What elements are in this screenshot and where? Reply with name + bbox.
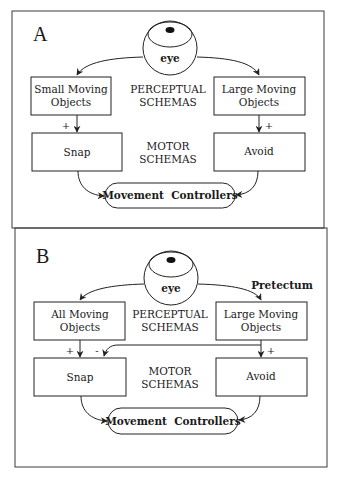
arrow-eye-to-left <box>80 284 144 300</box>
arrow-avoid-to-controllers <box>236 171 258 195</box>
arrow-snap-to-controllers <box>81 396 107 421</box>
arrow-eye-to-right <box>197 57 259 75</box>
sign-right: + <box>265 120 273 131</box>
arrow-avoid-to-controllers <box>239 396 260 420</box>
perceptual-schemas-label-2: SCHEMAS <box>139 96 197 108</box>
arrow-inhibit-snap <box>104 345 261 356</box>
sign-right: + <box>267 345 275 356</box>
motor-avoid-label: Avoid <box>243 145 274 157</box>
perceptual-schemas-label-2: SCHEMAS <box>141 321 199 333</box>
eye-icon <box>144 251 198 305</box>
motor-snap-label: Snap <box>64 146 91 158</box>
sign-left: + <box>66 345 74 356</box>
eye-label: eye <box>160 52 180 64</box>
perceptual-right-line1: Large Moving <box>222 83 297 95</box>
perceptual-left-line2: Objects <box>51 96 91 108</box>
motor-snap-label: Snap <box>67 371 94 383</box>
panel-b-letter: B <box>36 245 49 267</box>
motor-schemas-label-2: SCHEMAS <box>139 153 197 165</box>
perceptual-schemas-label-1: PERCEPTUAL <box>130 83 206 95</box>
schema-diagram: A eye Small Moving Objects Large Moving … <box>0 0 338 479</box>
perceptual-right-line1: Large Moving <box>224 308 299 320</box>
motor-schemas-label-2: SCHEMAS <box>141 378 199 390</box>
motor-schemas-label-1: MOTOR <box>147 140 191 152</box>
perceptual-left-line2: Objects <box>60 321 100 333</box>
perceptual-left-line1: Small Moving <box>34 83 108 95</box>
panel-a: A eye Small Moving Objects Large Moving … <box>12 11 324 228</box>
perceptual-left-line1: All Moving <box>50 308 109 320</box>
movement-controllers-label: Movement Controllers <box>102 189 238 201</box>
motor-schemas-label-1: MOTOR <box>149 365 193 377</box>
motor-avoid-label: Avoid <box>245 370 276 382</box>
sign-inhibit: - <box>95 345 98 356</box>
movement-controllers-label: Movement Controllers <box>105 415 241 427</box>
pretectum-label: Pretectum <box>251 279 313 291</box>
arrow-eye-to-left <box>77 57 143 75</box>
perceptual-right-line2: Objects <box>239 96 279 108</box>
sign-left: + <box>62 120 70 131</box>
eye-icon <box>143 21 197 75</box>
perceptual-schemas-label-1: PERCEPTUAL <box>132 308 208 320</box>
arrow-snap-to-controllers <box>78 171 104 196</box>
eye-label: eye <box>161 282 181 294</box>
panel-a-letter: A <box>33 23 48 45</box>
perceptual-right-line2: Objects <box>241 321 281 333</box>
panel-b: B eye Pretectum All Moving Objects Large… <box>15 228 327 467</box>
